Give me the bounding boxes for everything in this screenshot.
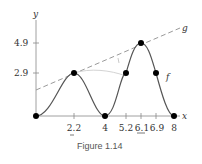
curve-f (36, 43, 174, 116)
x-tick-label: 4 (102, 123, 108, 133)
figure-caption: Figure 1.14 (77, 141, 123, 151)
x-tick-label: 8 (171, 123, 177, 133)
f-label: f (165, 72, 171, 82)
x-tick-label: 5.2 (119, 123, 133, 133)
x-tick-label: 6.9 (150, 123, 165, 133)
x-tick-labels: 2.2 4 5.2 6.1 6.9 8 (67, 123, 177, 133)
faint-connector (74, 70, 126, 76)
x-tick-label: 6.1 (135, 123, 149, 133)
y-tick-label-4.9: 4.9 (14, 38, 29, 48)
g-label: g (182, 23, 188, 33)
y-tick-label-2.9: 2.9 (14, 68, 29, 78)
small-mark (118, 58, 119, 63)
figure-chart: y x g f 4.9 2.9 2.2 4 5.2 6.1 6.9 8 Figu… (0, 0, 202, 164)
data-points (33, 40, 177, 119)
x-axis-label: x (182, 111, 187, 121)
y-axis-label: y (32, 9, 39, 19)
x-tick-label: 2.2 (67, 123, 81, 133)
